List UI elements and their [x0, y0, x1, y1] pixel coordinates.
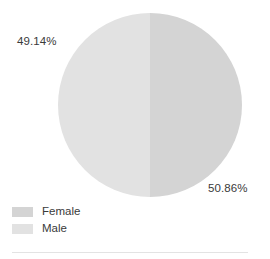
slice-percent-label-female: 50.86%	[208, 182, 248, 194]
legend-swatch-female-icon	[12, 207, 33, 217]
legend-swatch-male-icon	[12, 224, 33, 234]
pie-svg	[58, 13, 242, 197]
bottom-divider	[12, 252, 248, 253]
legend-label-male: Male	[42, 223, 67, 235]
pie-chart-figure: 49.14% 50.86% Female Male	[0, 0, 270, 259]
pie-chart-graphic	[58, 13, 242, 197]
pie-slice-male[interactable]	[58, 13, 150, 197]
legend-item-male[interactable]: Male	[12, 220, 152, 237]
chart-legend: Female Male	[12, 203, 152, 237]
slice-percent-label-male: 49.14%	[17, 35, 57, 47]
legend-label-female: Female	[42, 206, 80, 218]
pie-slice-female[interactable]	[150, 13, 242, 197]
legend-item-female[interactable]: Female	[12, 203, 152, 220]
